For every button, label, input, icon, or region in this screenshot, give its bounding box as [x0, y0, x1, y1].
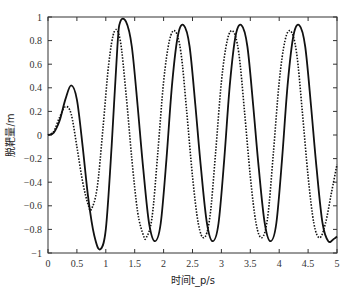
y-tick-label: −0.2 — [24, 153, 42, 164]
x-tick-label: 2.5 — [186, 258, 199, 269]
x-tick-label: 1 — [103, 258, 108, 269]
y-tick-label: 0 — [37, 130, 42, 141]
x-tick-label: 3 — [219, 258, 224, 269]
y-axis-label: 脱靶量/m — [4, 113, 16, 156]
y-tick-label: −0.6 — [24, 200, 42, 211]
y-tick-label: 0.4 — [30, 82, 43, 93]
x-tick-label: 0 — [46, 258, 51, 269]
y-tick-label: −1 — [31, 248, 42, 259]
y-tick-label: 0.8 — [30, 35, 43, 46]
x-tick-label: 4 — [277, 258, 282, 269]
y-tick-label: 1 — [37, 12, 42, 23]
x-tick-label: 3.5 — [244, 258, 257, 269]
y-tick-label: 0.2 — [30, 106, 43, 117]
x-tick-label: 2 — [161, 258, 166, 269]
x-axis-label: 时间t_p/s — [171, 274, 215, 287]
x-tick-label: 5 — [335, 258, 340, 269]
chart: 00.511.522.533.544.55 −1−0.8−0.6−0.4−0.2… — [0, 0, 351, 297]
x-tick-label: 4.5 — [302, 258, 315, 269]
y-tick-label: 0.6 — [30, 59, 43, 70]
x-tick-label: 0.5 — [71, 258, 84, 269]
y-tick-label: −0.8 — [24, 224, 42, 235]
y-tick-label: −0.4 — [24, 177, 42, 188]
x-tick-label: 1.5 — [128, 258, 141, 269]
